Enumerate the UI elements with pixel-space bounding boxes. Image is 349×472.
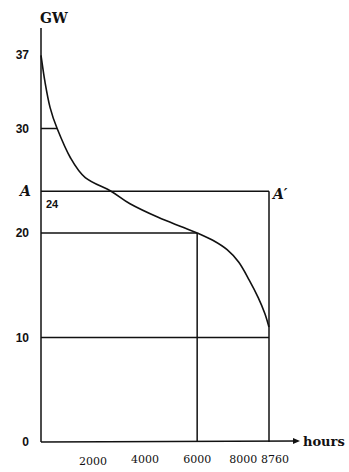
reference-lines [41, 129, 269, 443]
x-axis-arrow-icon [293, 438, 300, 444]
x-tick-label: 8760 [261, 453, 289, 466]
y-tick-label: 30 [16, 122, 30, 136]
x-tick-label: 2000 [79, 455, 107, 468]
x-tick-label: 4000 [131, 453, 159, 466]
y-tick-labels: 010203037 [16, 48, 30, 449]
annotation-label: 24 [46, 198, 59, 210]
y-tick-label: 0 [22, 435, 29, 449]
x-tick-label: 6000 [183, 453, 211, 466]
annotation-label: A [18, 183, 31, 199]
y-tick-label: 37 [16, 48, 30, 62]
load-duration-chart: GW hours 20004000600080008760 010203037 … [0, 0, 349, 472]
x-axis-label: hours [303, 434, 345, 449]
y-tick-label: 10 [16, 331, 30, 345]
y-tick-label: 20 [16, 226, 30, 240]
x-tick-labels: 20004000600080008760 [79, 453, 289, 468]
annotation-label: A′ [271, 186, 288, 202]
annotations: A24A′ [18, 183, 288, 210]
y-axis-label: GW [40, 10, 68, 26]
x-tick-label: 8000 [229, 453, 257, 466]
x-axis [41, 441, 296, 442]
